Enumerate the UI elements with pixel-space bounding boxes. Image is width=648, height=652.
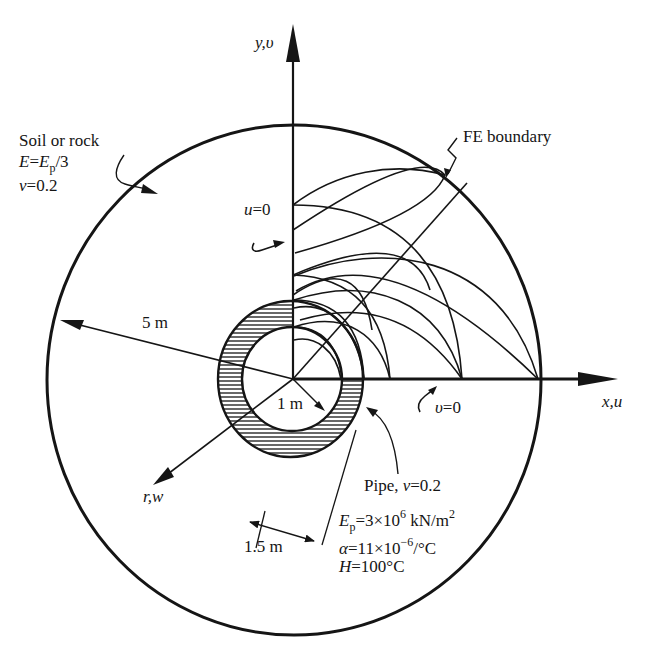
pipe-outer-radius-label: 1.5 m [244, 537, 283, 557]
soil-modulus: E=Ep/3 [19, 152, 69, 178]
fe-mesh [293, 167, 538, 379]
fe-boundary-label: FE boundary [463, 127, 551, 147]
pipe-title: Pipe, ν=0.2 [364, 476, 441, 496]
outer-radius-label: 5 m [142, 313, 168, 333]
diagram-canvas [0, 0, 648, 652]
pipe-leader-arrowhead-icon [366, 407, 378, 417]
pipe-in-soil-diagram: y,υ x,u r,w Soil or rock E=Ep/3 ν=0.2 FE… [0, 0, 648, 652]
x-axis-arrowhead-icon [578, 372, 618, 386]
r-axis-label: r,w [143, 487, 163, 507]
inner-radius-label: 1 m [277, 394, 303, 414]
soil-poisson: ν=0.2 [19, 176, 57, 196]
u-zero-label: u=0 [244, 200, 271, 220]
fe-mesh-arcs [293, 169, 538, 379]
soil-leader-arrowhead-icon [141, 184, 158, 194]
x-axis-label: x,u [602, 392, 622, 412]
soil-title: Soil or rock [19, 131, 99, 151]
pipe-temperature: H=100°C [339, 557, 405, 577]
pipe-leader [370, 410, 398, 474]
v-zero-arrowhead-icon [428, 386, 437, 395]
outer-radius-arrowhead-icon [60, 320, 84, 330]
soil-leader [116, 155, 152, 191]
r-axis-arrowhead-icon [153, 467, 174, 485]
u-zero-arrowhead-icon [273, 240, 285, 248]
fe-boundary-leader [448, 138, 457, 174]
v-zero-label: υ=0 [435, 398, 461, 418]
y-axis-label: y,υ [255, 33, 274, 53]
pipe-thermal-expansion: α=11×10−6/°C [339, 532, 436, 559]
y-axis-arrowhead-icon [286, 24, 300, 62]
